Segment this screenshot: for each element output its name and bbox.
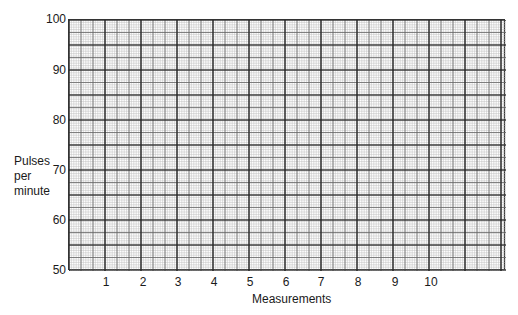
y-tick-100: 100: [46, 13, 66, 25]
grid-lines: [69, 20, 506, 271]
x-tick-10: 10: [424, 276, 437, 288]
graph-paper-grid: [68, 19, 505, 270]
x-tick-4: 4: [211, 276, 218, 288]
x-tick-6: 6: [283, 276, 290, 288]
y-axis-label-line-2: per: [14, 169, 50, 184]
x-tick-7: 7: [318, 276, 325, 288]
x-tick-2: 2: [140, 276, 147, 288]
x-tick-1: 1: [103, 276, 110, 288]
y-axis-label: Pulses per minute: [14, 154, 50, 199]
y-axis-label-line-1: Pulses: [14, 154, 50, 169]
x-tick-5: 5: [247, 276, 254, 288]
y-tick-70: 70: [53, 164, 66, 176]
x-axis-label: Measurements: [252, 292, 331, 306]
y-tick-50: 50: [53, 264, 66, 276]
y-tick-90: 90: [53, 64, 66, 76]
x-tick-8: 8: [355, 276, 362, 288]
x-tick-9: 9: [392, 276, 399, 288]
y-tick-60: 60: [53, 214, 66, 226]
y-axis-label-line-3: minute: [14, 184, 50, 199]
y-tick-80: 80: [53, 114, 66, 126]
x-tick-3: 3: [175, 276, 182, 288]
